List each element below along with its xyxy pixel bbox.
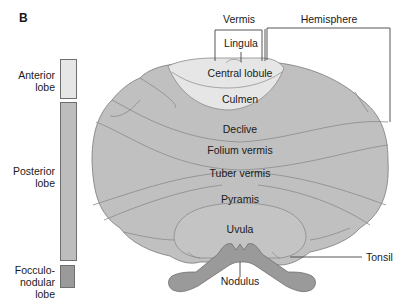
tonsil-label: Tonsil xyxy=(366,251,393,263)
pyramis-label: Pyramis xyxy=(221,193,259,205)
declive-label: Declive xyxy=(223,123,257,135)
folium-vermis-label: Folium vermis xyxy=(207,144,272,156)
lingula-label: Lingula xyxy=(224,37,258,49)
uvula-label: Uvula xyxy=(227,223,254,235)
vermis-label: Vermis xyxy=(223,13,255,25)
central-lobule-label: Central lobule xyxy=(208,67,273,79)
hemisphere-label: Hemisphere xyxy=(301,13,358,25)
cerebellum-diagram xyxy=(0,0,404,305)
culmen-label: Culmen xyxy=(222,93,258,105)
tuber-vermis-label: Tuber vermis xyxy=(210,167,271,179)
nodulus-label: Nodulus xyxy=(221,275,260,287)
